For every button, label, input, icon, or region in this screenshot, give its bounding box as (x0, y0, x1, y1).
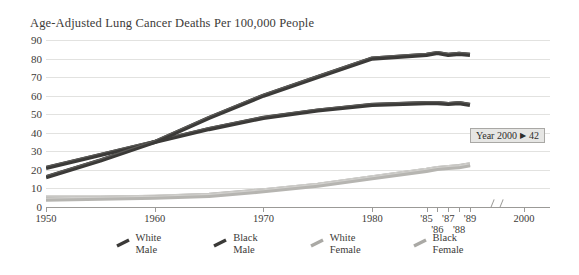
x-axis-line (46, 207, 550, 208)
y-tick-label: 70 (16, 71, 42, 83)
legend-label-line1: Black (233, 232, 258, 244)
y-tick-label: 20 (16, 164, 42, 176)
y-tick-label: 40 (16, 127, 42, 139)
chart-legend: WhiteMaleBlackMaleWhiteFemaleBlackFemale (0, 232, 579, 255)
legend-item[interactable]: BlackMale (213, 232, 258, 255)
series-line (46, 165, 470, 199)
legend-swatch-icon (413, 235, 427, 247)
x-tick-mark (46, 207, 47, 212)
year-2000-tooltip: Year 2000 ▶ 42 (470, 128, 545, 143)
tooltip-value: 42 (529, 130, 539, 141)
tooltip-label: Year 2000 (476, 130, 517, 141)
x-tick-mark (524, 207, 525, 212)
legend-label: WhiteMale (136, 232, 162, 255)
series-line (46, 53, 470, 177)
legend-label-line2: Female (433, 244, 464, 256)
legend-item[interactable]: BlackFemale (413, 232, 464, 255)
y-tick-label: 60 (16, 90, 42, 102)
series-layer (46, 40, 550, 207)
x-tick-mark (470, 207, 471, 212)
legend-label-line1: Black (433, 232, 464, 244)
x-tick-label: '87 (442, 213, 454, 224)
y-axis: 0102030405060708090 (12, 40, 42, 207)
x-tick-mark (437, 207, 438, 212)
legend-label-line1: White (330, 232, 361, 244)
x-tick-label: '89 (464, 213, 476, 224)
legend-item[interactable]: WhiteFemale (310, 232, 361, 255)
lung-cancer-deaths-chart: Age-Adjusted Lung Cancer Deaths Per 100,… (0, 0, 579, 275)
x-tick-mark (263, 207, 264, 212)
x-tick-label: 1970 (253, 213, 274, 224)
page-title: Age-Adjusted Lung Cancer Deaths Per 100,… (30, 16, 314, 31)
x-tick-mark (155, 207, 156, 212)
legend-label-line1: White (136, 232, 162, 244)
legend-label: BlackFemale (433, 232, 464, 255)
tooltip-arrow-icon: ▶ (520, 132, 526, 140)
legend-label-line2: Female (330, 244, 361, 256)
x-tick-label: 1950 (36, 213, 57, 224)
y-tick-label: 30 (16, 145, 42, 157)
legend-swatch-icon (310, 235, 324, 247)
y-tick-label: 0 (16, 201, 42, 213)
x-tick-mark (427, 207, 428, 212)
legend-label: BlackMale (233, 232, 258, 255)
x-tick-mark (448, 207, 449, 212)
legend-swatch-icon (116, 235, 130, 247)
x-tick-label: 2000 (514, 213, 535, 224)
y-tick-label: 10 (16, 182, 42, 194)
y-tick-label: 90 (16, 34, 42, 46)
y-tick-label: 80 (16, 53, 42, 65)
x-tick-label: 1980 (362, 213, 383, 224)
legend-label-line2: Male (136, 244, 162, 256)
legend-swatch-icon (213, 235, 227, 247)
x-tick-label: 1960 (144, 213, 165, 224)
legend-item[interactable]: WhiteMale (116, 232, 162, 255)
x-tick-mark (372, 207, 373, 212)
x-tick-mark (459, 207, 460, 212)
x-tick-label: '85 (420, 213, 432, 224)
legend-label-line2: Male (233, 244, 258, 256)
legend-label: WhiteFemale (330, 232, 361, 255)
y-tick-label: 50 (16, 108, 42, 120)
